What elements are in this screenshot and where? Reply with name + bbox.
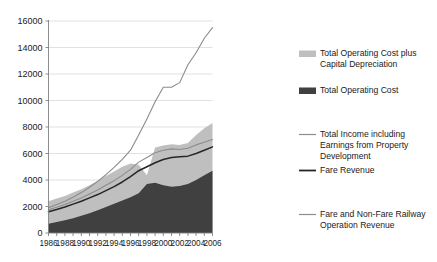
chart-container: 0200040006000800010000120001400016000 19… (0, 0, 437, 262)
x-tick-label: 2006 (203, 239, 222, 248)
mtr-operating-cost-income-chart: 0200040006000800010000120001400016000 19… (0, 0, 437, 262)
legend-swatch (299, 88, 316, 95)
y-tick-label: 0 (37, 228, 42, 238)
y-tick-label: 14000 (17, 43, 42, 53)
y-tick-label: 8000 (22, 122, 42, 132)
legend-label: Fare Revenue (320, 165, 375, 175)
y-tick-label: 4000 (22, 175, 42, 185)
y-tick-label: 12000 (17, 69, 42, 79)
legend-label: Total Operating Cost (320, 85, 399, 95)
legend-swatch (299, 51, 316, 58)
x-axis-tick-labels: 1986198819901992199419961998200020022004… (39, 239, 222, 248)
y-tick-label: 16000 (17, 16, 42, 26)
y-tick-label: 2000 (22, 202, 42, 212)
y-tick-label: 10000 (17, 96, 42, 106)
y-tick-label: 6000 (22, 149, 42, 159)
